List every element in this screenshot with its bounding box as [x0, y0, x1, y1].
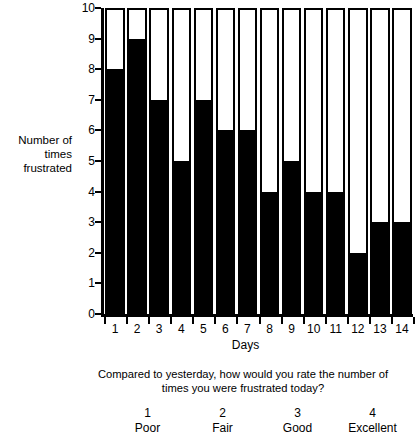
x-tick-label: 6	[222, 322, 229, 336]
x-tick-label: 5	[200, 322, 207, 336]
x-tick-label: 2	[134, 322, 141, 336]
bar-fill	[105, 69, 124, 314]
bar	[326, 8, 345, 314]
bar	[216, 8, 235, 314]
x-tick-label: 11	[330, 322, 342, 336]
bar	[149, 8, 168, 314]
bar-fill	[348, 253, 367, 314]
x-axis-title: Days	[76, 338, 415, 352]
bar	[194, 8, 213, 314]
bar	[304, 8, 323, 314]
bar-fill	[304, 192, 323, 314]
y-tick-label: 2	[88, 247, 95, 259]
y-axis-tick-labels: 109876543210	[76, 4, 95, 334]
y-tick-label: 1	[88, 277, 95, 289]
plot-area: 109876543210 1234567891011121314	[76, 4, 415, 334]
bar-fill	[282, 161, 301, 314]
x-tick-label: 8	[266, 322, 273, 336]
y-axis-title: Number of times frustrated	[0, 133, 72, 175]
rating-scale-word: Good	[260, 421, 336, 436]
rating-scale-word: Poor	[110, 421, 186, 436]
rating-scale: 1Poor2Fair3Good4Excellent	[110, 406, 410, 436]
rating-scale-number: 1	[110, 406, 186, 421]
rating-scale-number: 2	[185, 406, 261, 421]
y-tick-label: 4	[88, 186, 95, 198]
question-line-1: Compared to yesterday, how would you rat…	[76, 367, 410, 381]
bar	[392, 8, 411, 314]
survey-question: Compared to yesterday, how would you rat…	[76, 367, 410, 395]
x-tick-label: 3	[156, 322, 163, 336]
y-tick-label: 6	[88, 124, 95, 136]
y-tick-label: 8	[88, 63, 95, 75]
x-tick-label: 14	[395, 322, 408, 336]
x-tick-label: 10	[307, 322, 320, 336]
question-line-2: times you were frustrated today?	[76, 381, 410, 395]
bar	[260, 8, 279, 314]
y-tick-label: 3	[88, 216, 95, 228]
bar-fill	[216, 130, 235, 314]
y-tick-label: 0	[88, 308, 95, 320]
x-tick-label: 1	[112, 322, 119, 336]
bar-fill	[260, 192, 279, 314]
x-tick-label: 7	[244, 322, 251, 336]
rating-scale-word: Fair	[185, 421, 261, 436]
y-tick-label: 5	[88, 155, 95, 167]
bar	[348, 8, 367, 314]
rating-scale-word: Excellent	[335, 421, 411, 436]
rating-scale-number: 4	[335, 406, 411, 421]
bar-fill	[392, 222, 411, 314]
bar-fill	[149, 100, 168, 314]
bar	[127, 8, 146, 314]
bar-fill	[172, 161, 191, 314]
bar-fill	[370, 222, 389, 314]
rating-scale-item[interactable]: 3Good	[260, 406, 336, 436]
x-tick-label: 13	[373, 322, 386, 336]
rating-scale-item[interactable]: 1Poor	[110, 406, 186, 436]
y-tick-label: 9	[88, 33, 95, 45]
bar-fill	[238, 130, 257, 314]
x-tick-label: 9	[288, 322, 295, 336]
bar	[238, 8, 257, 314]
rating-scale-item[interactable]: 2Fair	[185, 406, 261, 436]
y-tick-label: 10	[82, 2, 95, 14]
bar	[172, 8, 191, 314]
rating-scale-item[interactable]: 4Excellent	[335, 406, 411, 436]
bar-fill	[326, 192, 345, 314]
bar	[105, 8, 124, 314]
bar-fill	[194, 100, 213, 314]
chart-page: Number of times frustrated 109876543210 …	[0, 0, 415, 436]
bars-container	[104, 8, 413, 314]
bar	[370, 8, 389, 314]
y-tick-label: 7	[88, 94, 95, 106]
x-tick-label: 4	[178, 322, 185, 336]
rating-scale-number: 3	[260, 406, 336, 421]
x-axis-tick-labels: 1234567891011121314	[104, 322, 413, 338]
bar	[282, 8, 301, 314]
bar-fill	[127, 39, 146, 314]
x-tick-label: 12	[351, 322, 364, 336]
